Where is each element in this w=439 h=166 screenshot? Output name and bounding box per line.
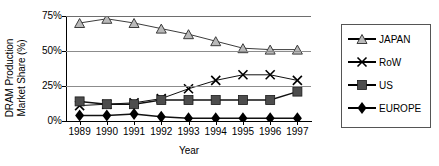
legend-item-row[interactable]: RoW — [348, 54, 430, 70]
y-axis-tick-25%: 25% — [28, 81, 62, 91]
diamond-marker — [130, 108, 139, 120]
triangle-marker — [357, 35, 367, 44]
legend-label: JAPAN — [379, 34, 411, 45]
x-marker — [211, 76, 220, 85]
series-europe — [75, 108, 302, 121]
x-tickmark — [297, 121, 298, 125]
x-marker — [358, 58, 367, 67]
x-axis-title: Year — [66, 145, 312, 156]
diamond-marker — [75, 109, 84, 121]
gridline-50% — [66, 51, 311, 52]
x-marker — [293, 76, 302, 85]
legend-label: EUROPE — [379, 103, 421, 114]
triangle-marker — [75, 19, 85, 28]
x-tickmark — [161, 121, 162, 125]
series-us — [75, 87, 302, 109]
triangle-marker — [129, 19, 139, 28]
square-marker — [75, 97, 84, 106]
square-icon — [348, 78, 376, 92]
y-axis-tick-50%: 50% — [28, 46, 62, 56]
x-tickmark — [107, 121, 108, 125]
x-tickmark — [189, 121, 190, 125]
square-marker — [102, 100, 111, 109]
triangle-marker — [156, 24, 166, 33]
y-tickmark — [62, 16, 66, 17]
legend-label: RoW — [379, 57, 401, 68]
x-tickmark — [216, 121, 217, 125]
diamond-marker — [102, 109, 111, 121]
legend-item-japan[interactable]: JAPAN — [348, 31, 430, 47]
chart-root: DRAM Production Market Share (%) 0%25%50… — [0, 0, 439, 166]
diamond-marker — [184, 112, 193, 121]
y-tickmark — [62, 51, 66, 52]
x-tickmark — [80, 121, 81, 125]
plot-area — [66, 16, 311, 121]
diamond-marker — [358, 102, 367, 114]
triangle-icon — [348, 32, 376, 46]
y-axis-title-line2: Market Share (%) — [16, 16, 28, 140]
series-layer — [66, 16, 311, 121]
x-tickmark — [243, 121, 244, 125]
legend-item-europe[interactable]: EUROPE — [348, 100, 430, 116]
x-axis-tick-labels: 198919901991199219931994199519961997 — [66, 126, 312, 140]
triangle-marker — [102, 16, 112, 23]
y-tickmark — [62, 86, 66, 87]
y-axis-tick-75%: 75% — [28, 11, 62, 21]
square-marker — [157, 96, 166, 105]
triangle-marker — [184, 30, 194, 39]
gridline-25% — [66, 86, 311, 87]
triangle-marker — [211, 37, 221, 46]
diamond-marker — [238, 112, 247, 121]
diamond-marker — [211, 112, 220, 121]
series-japan — [75, 16, 303, 54]
square-marker — [293, 87, 302, 96]
square-marker — [211, 96, 220, 105]
square-marker — [130, 100, 139, 109]
square-marker — [238, 96, 247, 105]
square-marker — [358, 81, 367, 90]
x-icon — [348, 55, 376, 69]
diamond-marker — [293, 112, 302, 121]
x-axis-tick-1997: 1997 — [277, 126, 317, 138]
y-axis-tick-0%: 0% — [28, 116, 62, 126]
diamond-marker — [266, 112, 275, 121]
square-marker — [184, 96, 193, 105]
square-marker — [266, 96, 275, 105]
x-tickmark — [134, 121, 135, 125]
y-axis-title-line1: DRAM Production — [4, 16, 16, 140]
gridline-75% — [66, 16, 311, 17]
diamond-marker — [157, 111, 166, 121]
diamond-icon — [348, 101, 376, 115]
y-axis-tick-labels: 0%25%50%75% — [28, 0, 62, 166]
chart-legend: JAPANRoWUSEUROPE — [341, 24, 431, 128]
legend-item-us[interactable]: US — [348, 77, 430, 93]
y-tickmark — [62, 121, 66, 122]
x-tickmark — [270, 121, 271, 125]
legend-label: US — [379, 80, 393, 91]
